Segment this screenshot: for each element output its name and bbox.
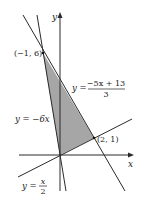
point-2-1 xyxy=(93,137,96,140)
line-b-label: y = −6x xyxy=(14,114,50,124)
line-c-label-lhs: y = xyxy=(21,181,37,191)
point-label-neg1-6: (−1, 6) xyxy=(14,49,42,58)
graph: y x (−1, 6) (2, 1) y = −5x + 13 3 y = −6… xyxy=(0,0,142,210)
line-c-label-num: x xyxy=(41,177,46,186)
y-axis-label: y xyxy=(51,12,58,22)
line-a-label-num: −5x + 13 xyxy=(87,79,125,88)
shaded-region xyxy=(43,53,94,155)
y-axis-arrow-icon xyxy=(58,12,63,18)
x-axis-label: x xyxy=(128,159,133,169)
point-label-2-1: (2, 1) xyxy=(97,135,119,144)
line-a-label-lhs: y = xyxy=(71,83,87,93)
line-c-label-den: 2 xyxy=(40,187,45,196)
x-axis-arrow-icon xyxy=(128,153,134,158)
line-a xyxy=(23,15,125,191)
line-a-label-den: 3 xyxy=(103,90,108,99)
